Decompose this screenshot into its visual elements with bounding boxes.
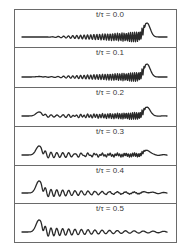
panel-label: t/τ = 0.5 bbox=[96, 204, 124, 213]
panel-label: t/τ = 0.3 bbox=[96, 127, 124, 136]
panel-label: t/τ = 0.4 bbox=[96, 166, 124, 175]
waveform-line bbox=[22, 146, 167, 158]
panel-label: t/τ = 0.1 bbox=[96, 48, 124, 57]
panel-label: t/τ = 0.0 bbox=[96, 10, 124, 19]
panel-t-0-4: t/τ = 0.4 bbox=[22, 166, 167, 197]
waveform-line bbox=[22, 220, 167, 236]
waveform-line bbox=[22, 107, 167, 119]
panels-group: t/τ = 0.0t/τ = 0.1t/τ = 0.2t/τ = 0.3t/τ … bbox=[14, 10, 177, 243]
panel-t-0-3: t/τ = 0.3 bbox=[22, 127, 167, 158]
panel-t-0-2: t/τ = 0.2 bbox=[22, 88, 167, 119]
panel-t-0: t/τ = 0.0 bbox=[22, 10, 167, 42]
waveform-figure: t/τ = 0.0t/τ = 0.1t/τ = 0.2t/τ = 0.3t/τ … bbox=[0, 0, 187, 249]
waveform-line bbox=[22, 181, 167, 197]
waveform-line bbox=[22, 23, 167, 42]
panel-label: t/τ = 0.2 bbox=[96, 88, 124, 97]
panel-t-0-1: t/τ = 0.1 bbox=[22, 48, 167, 81]
waveform-line bbox=[22, 64, 167, 81]
panel-t-0-5: t/τ = 0.5 bbox=[22, 204, 167, 236]
